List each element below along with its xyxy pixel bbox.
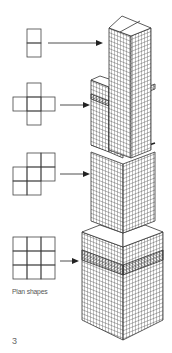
tower-diagram	[0, 0, 172, 353]
figure-number: 3	[12, 336, 17, 346]
arrow-icon	[60, 102, 90, 108]
arrow-icon	[48, 40, 103, 46]
plan-shape-cross	[13, 83, 55, 125]
tower	[82, 16, 163, 340]
plan-shape-full-square	[13, 237, 55, 279]
plan-shape-notched-square	[13, 153, 55, 195]
plan-shape-two-square	[27, 29, 41, 57]
plan-shapes-caption: Plan shapes	[12, 287, 48, 296]
arrow-icon	[60, 258, 79, 264]
arrow-icon	[60, 171, 90, 177]
